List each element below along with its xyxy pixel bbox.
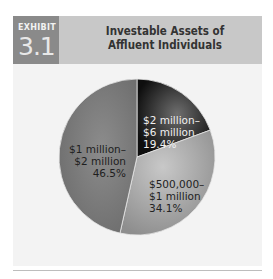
pie-chart (0, 0, 273, 279)
bottom-rule (13, 270, 262, 271)
slice-label-500k-1m: $500,000– $1 million 34.1% (149, 178, 204, 214)
slice-label-2m-6m: $2 million– $6 million 19.4% (143, 114, 200, 150)
slice-label-1m-2m: $1 million– $2 million 46.5% (66, 143, 126, 179)
